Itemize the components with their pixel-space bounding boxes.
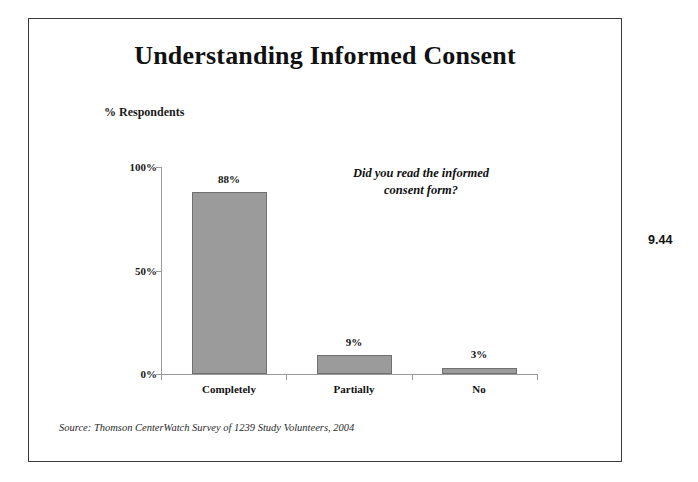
- bar-completely[interactable]: [192, 192, 267, 374]
- bar-value-no: 3%: [471, 348, 488, 360]
- y-tick-mark-50: [156, 271, 162, 272]
- bar-value-partially: 9%: [346, 336, 363, 348]
- y-tick-label-50: 50%: [135, 265, 157, 277]
- chart-annotation: Did you read the informed consent form?: [331, 165, 511, 199]
- chart-annotation-line-1: Did you read the informed: [331, 165, 511, 182]
- category-label-completely: Completely: [202, 383, 256, 395]
- figure-number: 9.44: [648, 233, 672, 247]
- chart-plot-area: 100% 50% 0% 88% Completely 9% Partially …: [131, 149, 581, 399]
- x-tick-mark-2: [412, 374, 413, 380]
- y-axis-title: % Respondents: [104, 105, 184, 120]
- bar-no[interactable]: [442, 368, 517, 374]
- source-note: Source: Thomson CenterWatch Survey of 12…: [59, 422, 354, 433]
- bar-value-completely: 88%: [218, 173, 240, 185]
- y-tick-label-0: 0%: [141, 368, 158, 380]
- y-tick-label-100: 100%: [130, 161, 158, 173]
- x-tick-mark-start: [161, 374, 162, 380]
- x-tick-mark-end: [537, 374, 538, 380]
- bar-partially[interactable]: [317, 355, 392, 374]
- chart-annotation-line-2: consent form?: [331, 182, 511, 199]
- x-axis-line: [161, 374, 538, 375]
- y-tick-mark-100: [156, 167, 162, 168]
- category-label-partially: Partially: [334, 383, 375, 395]
- slide-frame: Understanding Informed Consent % Respond…: [28, 18, 622, 462]
- page-title: Understanding Informed Consent: [29, 41, 621, 71]
- category-label-no: No: [472, 383, 485, 395]
- x-tick-mark-1: [286, 374, 287, 380]
